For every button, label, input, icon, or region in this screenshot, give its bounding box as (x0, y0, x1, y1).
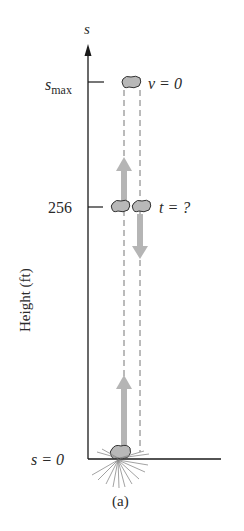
axis-name-label: s (84, 21, 90, 37)
tick-label-256: 256 (48, 199, 72, 216)
smax-label: smax (45, 76, 72, 97)
velocity-up-arrow-lower-icon (116, 375, 132, 446)
axis-arrowhead-icon (85, 44, 92, 56)
projectile-diagram: s smax 256 s = 0 Height (ft) (0, 0, 244, 531)
origin-label: s = 0 (31, 451, 64, 468)
velocity-down-arrow-icon (132, 214, 148, 259)
annotation-v-zero: v = 0 (148, 75, 182, 92)
rock-rising-icon (111, 200, 130, 212)
annotation-t-unknown: t = ? (159, 199, 190, 216)
figure-caption: (a) (112, 493, 129, 510)
velocity-up-arrow-upper-icon (116, 157, 132, 201)
rock-top-icon (122, 76, 141, 88)
rock-falling-icon (132, 200, 151, 212)
ylabel: Height (ft) (17, 268, 34, 332)
vertical-axis (85, 44, 92, 459)
